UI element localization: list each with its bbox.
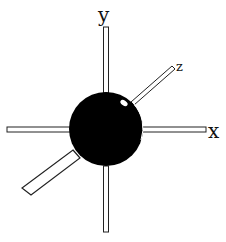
y-axis-rod-top [104, 27, 109, 93]
x-axis-rod-right [142, 127, 206, 132]
y-axis-rod-bottom [104, 166, 109, 232]
z-axis-rod-front [22, 150, 80, 195]
sphere [69, 92, 143, 166]
x-axis-label: x [208, 119, 220, 143]
z-axis-label: z [176, 59, 183, 74]
axes-diagram: y x z [0, 0, 226, 242]
x-axis-rod-left [7, 127, 71, 132]
y-axis-label: y [97, 3, 110, 27]
z-axis-rod-back [131, 66, 175, 105]
